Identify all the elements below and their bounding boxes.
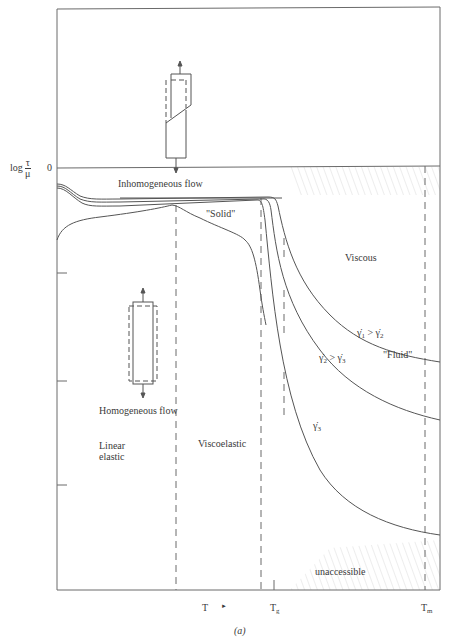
hatched-region-top xyxy=(290,167,440,195)
dashed-boundaries xyxy=(176,166,425,590)
figure-label: (a) xyxy=(234,625,246,636)
y-ticks xyxy=(57,273,67,485)
region-viscous: Viscous xyxy=(345,252,377,263)
y-label-denominator: μ xyxy=(25,169,30,179)
region-elastic-label: elastic xyxy=(99,451,125,462)
y-label-log: log xyxy=(10,162,23,173)
region-fluid: "Fluid" xyxy=(383,349,412,360)
annotation-gamma1-gt-gamma2: γ̇1 > γ̇2 xyxy=(357,327,383,341)
x-axis-label: T xyxy=(202,602,208,613)
phase-diagram-plot xyxy=(0,0,452,643)
annotation-gamma3: γ̇3 xyxy=(313,420,321,434)
region-homogeneous-flow: Homogeneous flow xyxy=(99,405,178,416)
x-axis-arrow-icon: ► xyxy=(221,603,227,610)
region-unaccessible: unaccessible xyxy=(315,566,366,577)
plot-frame xyxy=(57,7,440,590)
x-tick-tg: Tg xyxy=(270,602,280,616)
hatched-region-unaccessible xyxy=(290,540,440,590)
curve-gamma3 xyxy=(57,188,440,535)
region-solid: "Solid" xyxy=(206,208,235,219)
curve-elastic-limit xyxy=(57,205,266,325)
region-inhomogeneous-flow: Inhomogeneous flow xyxy=(118,178,203,189)
region-linear-elastic: Linear elastic xyxy=(99,440,125,462)
x-tick-tm: Tm xyxy=(421,602,433,616)
region-linear-label: Linear xyxy=(99,440,125,451)
y-tick-zero-label: 0 xyxy=(47,162,52,173)
annotation-gamma2-gt-gamma3: γ̇2 > γ̇3 xyxy=(319,352,345,366)
curve-gamma2 xyxy=(57,186,440,420)
y-axis-label: logτμ xyxy=(10,158,31,179)
region-viscoelastic: Viscoelastic xyxy=(198,438,246,449)
inhomogeneous-specimen-icon xyxy=(166,61,191,173)
homogeneous-specimen-icon xyxy=(129,288,157,398)
